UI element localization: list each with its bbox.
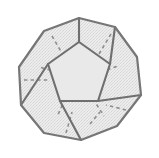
dodecahedron-drawing: Dodecahedron Shaded line drawing of a re… bbox=[0, 0, 159, 158]
polyhedron-figure: Dodecahedron Shaded line drawing of a re… bbox=[0, 0, 159, 158]
